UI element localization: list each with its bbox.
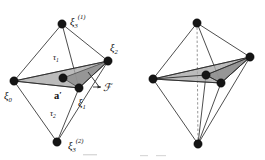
- artifact-mark-1: [83, 154, 97, 155]
- rvertex-left: [149, 75, 157, 83]
- vertex-xi1: [75, 84, 83, 92]
- rvertex-front: [217, 79, 225, 87]
- label-xi3-upper-sup: (1): [78, 13, 86, 21]
- artifact-mark-3: [156, 155, 166, 156]
- geometry-figure: ξ3(1) ξ2 ξ0 ξ1 ξ3(2) τ1 τ2: [0, 0, 265, 160]
- rvertex-top: [193, 19, 201, 27]
- label-xi3-upper-sub: 3: [74, 22, 79, 29]
- artifact-mark-2: [140, 155, 148, 156]
- vertex-xi3-upper: [58, 20, 66, 28]
- label-tau1-sub: 1: [56, 57, 59, 63]
- rvertex-bottom: [194, 140, 202, 148]
- vertex-xi3-lower: [53, 138, 61, 146]
- label-xi3-lower-sup: (2): [76, 137, 84, 145]
- vertex-xi0: [10, 77, 18, 85]
- rvertex-right: [246, 53, 254, 61]
- label-xi3-lower-sub: 3: [72, 146, 77, 153]
- label-xi1-sub: 1: [83, 103, 86, 110]
- label-a-prime-mark: ′: [59, 90, 62, 100]
- label-tau2-sub: 2: [53, 113, 56, 119]
- rvertex-center: [202, 71, 210, 79]
- figure-container: ξ3(1) ξ2 ξ0 ξ1 ξ3(2) τ1 τ2: [0, 0, 265, 160]
- vertex-a-prime: [59, 74, 67, 82]
- vertex-xi2: [104, 57, 112, 65]
- label-a-prime: a′: [54, 90, 62, 101]
